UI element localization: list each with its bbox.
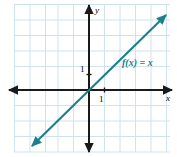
y-axis-label: y: [95, 6, 99, 15]
grid-lines: [14, 4, 170, 152]
x-axis-label: x: [166, 94, 170, 103]
function-line: [32, 15, 166, 146]
y-axis-tick-label-1: 1: [80, 65, 85, 74]
function-equation-label: f(x) = x: [122, 58, 153, 68]
graph-canvas: [0, 0, 177, 157]
function-graph-figure: y x 1 1 f(x) = x: [0, 0, 177, 157]
x-axis-tick-label-1: 1: [99, 95, 104, 104]
